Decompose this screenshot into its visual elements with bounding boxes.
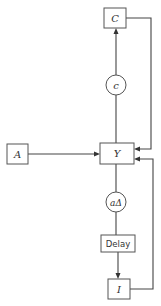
arrowhead-left-icon	[134, 157, 140, 162]
node-C-label: C	[111, 13, 119, 24]
node-I: I	[108, 279, 130, 299]
node-Y: Y	[100, 143, 134, 164]
arrowhead-down-icon	[116, 273, 121, 279]
node-A: A	[7, 144, 28, 164]
node-A-label: A	[13, 149, 21, 160]
node-c-label: c	[113, 80, 119, 91]
node-c: c	[106, 75, 126, 95]
arrowhead-up-icon	[114, 28, 119, 34]
node-a-delta: aΔ	[106, 192, 126, 212]
node-a-delta-label: aΔ	[110, 198, 122, 208]
edge-C-to-Y-loop	[126, 18, 151, 149]
arrowhead-right-icon	[94, 152, 100, 157]
edge-I-to-Y-loop	[130, 159, 153, 289]
node-delay-label: Delay	[106, 239, 130, 249]
flow-diagram: C c A Y aΔ Delay I	[0, 0, 161, 306]
node-delay: Delay	[101, 235, 135, 252]
arrowhead-left-icon	[134, 147, 140, 152]
node-C: C	[104, 8, 126, 28]
